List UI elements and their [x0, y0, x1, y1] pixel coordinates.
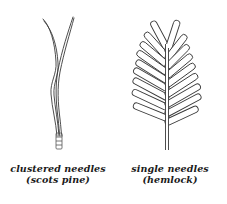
- hemlock-illustration: [110, 0, 227, 150]
- hemlock-branch-icon: [110, 0, 227, 150]
- right-needles: [164, 20, 203, 127]
- hemlock-caption: single needles (hemlock): [118, 163, 222, 185]
- hemlock-caption-title: single needles: [118, 163, 222, 174]
- pine-needle-cluster-icon: [20, 0, 100, 150]
- hemlock-stem: [166, 44, 169, 150]
- hemlock-caption-species: (hemlock): [118, 174, 222, 185]
- pine-caption-species: (scots pine): [2, 174, 114, 185]
- scots-pine-illustration: [20, 0, 100, 150]
- pine-caption: clustered needles (scots pine): [2, 163, 114, 185]
- left-needles: [131, 20, 170, 122]
- pine-caption-title: clustered needles: [2, 163, 114, 174]
